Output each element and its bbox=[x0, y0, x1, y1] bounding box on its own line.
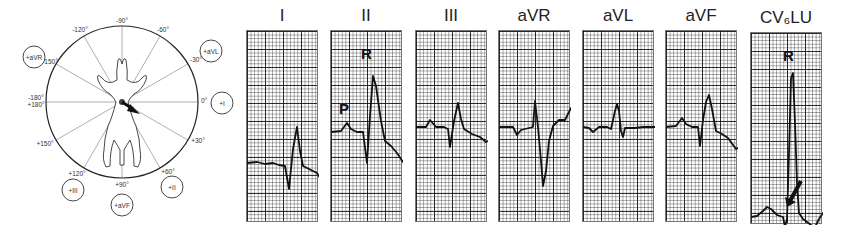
mean-electrical-axis-diagram: -90°-120°-60°-150°-30°-180°+180°0°+150°+… bbox=[0, 0, 240, 235]
lead-title: aVL bbox=[582, 6, 654, 26]
lead-circle: +II bbox=[161, 176, 183, 198]
ecg-grid-strip: PR bbox=[330, 30, 402, 222]
ecg-trace bbox=[247, 127, 319, 189]
angle-label: +120° bbox=[68, 170, 86, 177]
ecg-trace bbox=[583, 104, 655, 137]
ecg-grid-strip bbox=[582, 30, 654, 222]
angle-label: +30° bbox=[191, 137, 205, 144]
lead-avl: aVL bbox=[582, 30, 654, 222]
lead-i: I bbox=[246, 30, 318, 222]
ecg-grid-strip bbox=[498, 30, 570, 222]
lead-title: aVF bbox=[665, 6, 737, 26]
svg-text:+aVF: +aVF bbox=[114, 202, 130, 209]
angle-label: +90° bbox=[115, 181, 129, 188]
svg-text:+I: +I bbox=[219, 100, 225, 107]
ecg-trace bbox=[416, 103, 488, 147]
ecg-grid-strip: R bbox=[750, 32, 822, 224]
lead-avf: aVF bbox=[665, 30, 737, 222]
lead-title: I bbox=[246, 6, 318, 26]
lead-title: II bbox=[330, 6, 402, 26]
lead-title: III bbox=[415, 6, 487, 26]
lead-circle: +aVL bbox=[200, 40, 222, 62]
svg-text:+III: +III bbox=[68, 187, 77, 194]
ecg-grid-strip bbox=[415, 30, 487, 222]
lead-circle: +III bbox=[62, 179, 84, 201]
lead-title: aVR bbox=[498, 6, 570, 26]
ecg-trace bbox=[499, 101, 571, 186]
lead-circle: +aVF bbox=[111, 194, 133, 216]
lead-title: CV₆LU bbox=[750, 8, 822, 28]
lead-cv6lu: CV₆LUR bbox=[750, 32, 822, 224]
angle-label: -120° bbox=[72, 26, 88, 33]
wave-label-r: R bbox=[783, 47, 794, 64]
angle-label: +150° bbox=[36, 140, 54, 147]
wave-label-r: R bbox=[361, 45, 372, 62]
lead-ii: IIPR bbox=[330, 30, 402, 222]
angle-label: -30° bbox=[190, 56, 202, 63]
wave-label-p: P bbox=[339, 100, 349, 117]
ecg-trace bbox=[331, 76, 403, 165]
ecg-grid-strip bbox=[246, 30, 318, 222]
dog-silhouette-icon bbox=[98, 59, 147, 167]
angle-label: 0° bbox=[201, 97, 208, 104]
angle-label: -180° bbox=[28, 94, 44, 101]
angle-label: +180° bbox=[27, 101, 45, 108]
lead-circle: +aVR bbox=[23, 46, 45, 68]
svg-text:+II: +II bbox=[168, 184, 176, 191]
svg-text:+aVR: +aVR bbox=[26, 54, 43, 61]
lead-iii: III bbox=[415, 30, 487, 222]
ecg-grid-strip bbox=[665, 30, 737, 222]
angle-label: +60° bbox=[161, 168, 175, 175]
lead-avr: aVR bbox=[498, 30, 570, 222]
svg-text:+aVL: +aVL bbox=[203, 48, 219, 55]
angle-label: -90° bbox=[116, 17, 128, 24]
angle-label: -60° bbox=[157, 26, 169, 33]
ecg-trace bbox=[666, 95, 738, 149]
lead-circle: +I bbox=[211, 92, 233, 114]
